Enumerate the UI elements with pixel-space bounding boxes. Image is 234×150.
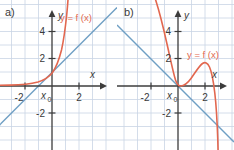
x0-label: x 0: [166, 90, 178, 103]
x-tick-label-2: 2: [76, 92, 82, 103]
y-tick-label-neg2: -2: [36, 108, 45, 119]
x-axis-label: x: [89, 69, 96, 80]
x0-label-base: x: [166, 90, 173, 101]
figure-container: -2 2 4 2 -2 x y x 0 y = f (x) a): [0, 0, 234, 150]
y-axis-arrow: [175, 10, 182, 17]
x-tick-label-2: 2: [202, 92, 208, 103]
panel-a: -2 2 4 2 -2 x y x 0 y = f (x) a): [0, 0, 117, 150]
x-axis-arrow: [220, 83, 227, 90]
y-axis-arrow: [49, 10, 56, 17]
x0-label-subscript: 0: [48, 96, 52, 103]
y-tick-label-2: 2: [165, 53, 171, 64]
y-tick-label-2: 2: [39, 53, 45, 64]
y-tick-label-neg2: -2: [162, 108, 171, 119]
y-tick-label-4: 4: [39, 26, 45, 37]
x-tick-label-neg2: -2: [15, 92, 24, 103]
y-tick-label-4: 4: [165, 26, 171, 37]
panel-b: -2 2 4 2 -2 x y x 0 y = f (x) b): [117, 0, 234, 150]
grid-lines: [0, 0, 117, 150]
x0-label: x 0: [40, 90, 52, 103]
x-axis-label: x: [211, 69, 218, 80]
x0-label-subscript: 0: [174, 96, 178, 103]
panel-label-a: a): [5, 6, 15, 18]
panel-a-plot: -2 2 4 2 -2 x y x 0 y = f (x) a): [0, 0, 117, 150]
function-label: y = f (x): [60, 12, 92, 23]
panel-label-b: b): [124, 6, 134, 18]
panel-b-plot: -2 2 4 2 -2 x y x 0 y = f (x) b): [117, 0, 234, 150]
y-axis-label: y: [183, 10, 190, 21]
tangent-line: [0, 8, 117, 129]
x0-label-base: x: [40, 90, 47, 101]
axis-lines: [0, 16, 101, 150]
function-label: y = f (x): [187, 49, 219, 60]
x-tick-label-neg2: -2: [141, 92, 150, 103]
